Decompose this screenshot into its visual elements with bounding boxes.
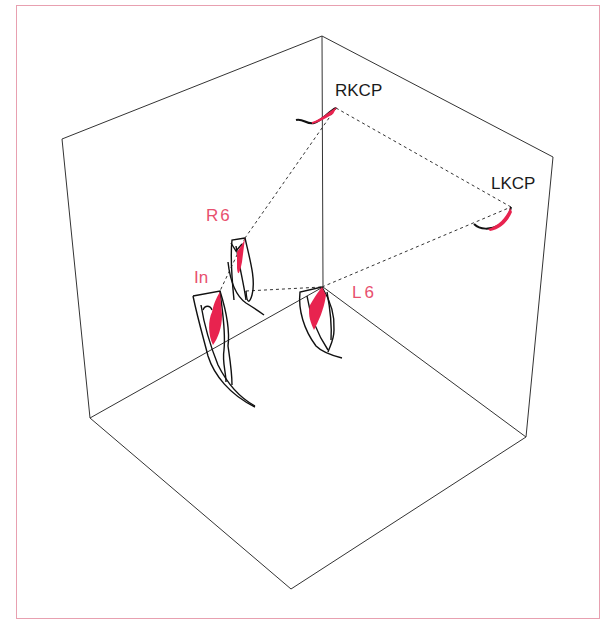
label-l6: L6	[352, 284, 377, 301]
label-rkcp: RKCP	[335, 82, 382, 99]
box-edges	[62, 36, 553, 589]
label-lkcp: LKCP	[491, 175, 535, 192]
l6-tooth-trajectory	[300, 287, 342, 358]
r6-tooth-trajectory	[228, 238, 264, 315]
lkcp-trajectory	[474, 207, 512, 231]
label-r6: R6	[206, 207, 232, 224]
3d-box-diagram	[0, 0, 607, 626]
incisor-tooth-trajectory	[193, 291, 255, 407]
rkcp-trajectory	[296, 107, 337, 124]
connection-lines	[220, 108, 511, 291]
label-in: In	[194, 269, 208, 286]
